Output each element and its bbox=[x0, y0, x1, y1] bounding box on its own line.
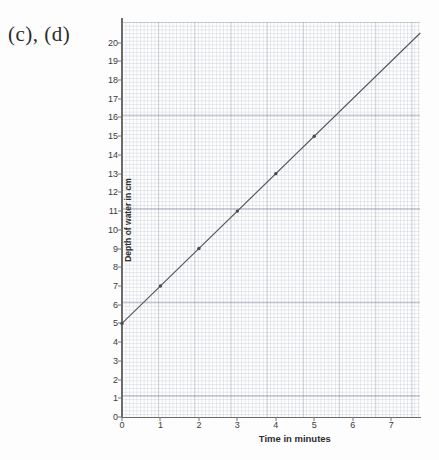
x-tick-mark bbox=[391, 417, 392, 421]
y-tick-label: 17 bbox=[108, 94, 118, 104]
y-tick-label: 15 bbox=[108, 131, 118, 141]
x-tick-label: 7 bbox=[389, 420, 394, 430]
y-tick-mark bbox=[118, 117, 122, 118]
x-tick-label: 1 bbox=[158, 420, 163, 430]
x-tick-label: 3 bbox=[235, 420, 240, 430]
y-tick-mark bbox=[118, 360, 122, 361]
figure-label: (c), (d) bbox=[8, 22, 70, 47]
y-tick-mark bbox=[118, 267, 122, 268]
y-tick-label: 12 bbox=[108, 187, 118, 197]
y-tick-mark bbox=[118, 42, 122, 43]
x-tick-label: 6 bbox=[350, 420, 355, 430]
y-tick-mark bbox=[118, 398, 122, 399]
x-tick-mark bbox=[122, 417, 123, 421]
y-tick-mark bbox=[118, 98, 122, 99]
y-tick-mark bbox=[118, 192, 122, 193]
y-tick-mark bbox=[118, 323, 122, 324]
x-tick-mark bbox=[198, 417, 199, 421]
x-tick-mark bbox=[314, 417, 315, 421]
y-tick-mark bbox=[118, 154, 122, 155]
y-axis-label: Depth of water in cm bbox=[123, 178, 133, 262]
y-tick-mark bbox=[118, 61, 122, 62]
y-tick-mark bbox=[118, 379, 122, 380]
y-tick-mark bbox=[118, 173, 122, 174]
y-tick-mark bbox=[118, 248, 122, 249]
y-tick-label: 11 bbox=[109, 206, 118, 216]
x-tick-mark bbox=[160, 417, 161, 421]
y-tick-label: 13 bbox=[108, 169, 118, 179]
x-tick-mark bbox=[352, 417, 353, 421]
x-tick-mark bbox=[275, 417, 276, 421]
y-tick-mark bbox=[118, 285, 122, 286]
x-axis-label: Time in minutes bbox=[259, 433, 331, 444]
chart-plot-area: 01234567891011121314151617181920 0123456… bbox=[122, 22, 420, 417]
y-tick-mark bbox=[118, 80, 122, 81]
x-tick-label: 5 bbox=[312, 420, 317, 430]
y-tick-mark bbox=[118, 211, 122, 212]
y-tick-label: 20 bbox=[108, 38, 118, 48]
y-tick-label: 10 bbox=[108, 225, 118, 235]
y-tick-label: 18 bbox=[108, 75, 118, 85]
y-tick-mark bbox=[118, 229, 122, 230]
x-tick-mark bbox=[237, 417, 238, 421]
y-tick-label: 16 bbox=[108, 112, 118, 122]
x-tick-label: 4 bbox=[273, 420, 278, 430]
y-tick-mark bbox=[118, 136, 122, 137]
x-tick-label: 2 bbox=[196, 420, 201, 430]
y-tick-label: 14 bbox=[108, 150, 118, 160]
graph-paper-major-gridlines bbox=[122, 22, 420, 417]
x-tick-label: 0 bbox=[119, 420, 124, 430]
y-tick-label: 19 bbox=[108, 56, 118, 66]
x-axis-line bbox=[121, 417, 421, 418]
y-tick-mark bbox=[118, 342, 122, 343]
y-tick-mark bbox=[118, 304, 122, 305]
